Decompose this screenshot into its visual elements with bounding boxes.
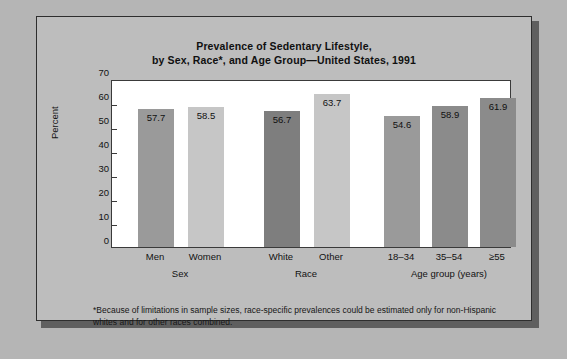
y-axis-tick-20: 20 xyxy=(77,187,109,199)
group-axis-labels: SexRaceAge group (years) xyxy=(111,268,511,282)
footnote-line-2: whites and for other races combined. xyxy=(93,317,493,329)
y-tick-mark-50 xyxy=(112,129,117,130)
group-label-age: Age group (years) xyxy=(379,268,519,279)
y-axis-tick-60: 60 xyxy=(77,91,109,103)
chart-title: Prevalence of Sedentary Lifestyle, by Se… xyxy=(37,39,531,67)
y-axis-title: Percent xyxy=(49,106,60,139)
bar-White: 56.7 xyxy=(264,111,300,247)
y-axis-tick-10: 10 xyxy=(77,211,109,223)
bar-18–34: 54.6 xyxy=(384,116,420,247)
bar-Men: 57.7 xyxy=(138,109,174,247)
bar-value-label: 61.9 xyxy=(480,101,516,112)
y-tick-mark-60 xyxy=(112,105,117,106)
y-tick-mark-10 xyxy=(112,225,117,226)
y-axis-tick-30: 30 xyxy=(77,163,109,175)
group-label-race: Race xyxy=(236,268,376,279)
category-label-Women: Women xyxy=(175,251,235,262)
bar-value-label: 58.9 xyxy=(432,109,468,120)
plot-area: 57.758.556.763.754.658.961.9 xyxy=(112,81,510,247)
bar-value-label: 56.7 xyxy=(264,114,300,125)
chart-title-line-1: Prevalence of Sedentary Lifestyle, xyxy=(37,39,531,53)
chart-title-line-2: by Sex, Race*, and Age Group—United Stat… xyxy=(37,53,531,67)
footnote-line-1: *Because of limitations in sample sizes,… xyxy=(93,305,493,317)
bar-value-label: 58.5 xyxy=(188,110,224,121)
y-tick-mark-30 xyxy=(112,177,117,178)
bar-≥55: 61.9 xyxy=(480,98,516,247)
y-axis-tick-labels: 706050403020100 xyxy=(77,73,109,248)
bar-35–54: 58.9 xyxy=(432,106,468,247)
footnote: *Because of limitations in sample sizes,… xyxy=(93,305,493,328)
bar-Other: 63.7 xyxy=(314,94,350,247)
group-label-sex: Sex xyxy=(110,268,250,279)
y-tick-mark-20 xyxy=(112,201,117,202)
y-axis-tick-70: 70 xyxy=(77,67,109,79)
y-tick-mark-40 xyxy=(112,153,117,154)
bar-value-label: 57.7 xyxy=(138,112,174,123)
y-axis-tick-50: 50 xyxy=(77,115,109,127)
category-label-≥55: ≥55 xyxy=(467,251,527,262)
bar-value-label: 54.6 xyxy=(384,119,420,130)
bar-value-label: 63.7 xyxy=(314,97,350,108)
figure-panel: Prevalence of Sedentary Lifestyle, by Se… xyxy=(36,16,532,321)
category-axis-labels: MenWomenWhiteOther18–3435–54≥55 xyxy=(111,251,511,265)
bar-Women: 58.5 xyxy=(188,107,224,247)
category-label-Other: Other xyxy=(301,251,361,262)
y-axis-tick-0: 0 xyxy=(77,235,109,247)
plot-frame: 57.758.556.763.754.658.961.9 xyxy=(111,80,511,248)
y-axis-tick-40: 40 xyxy=(77,139,109,151)
